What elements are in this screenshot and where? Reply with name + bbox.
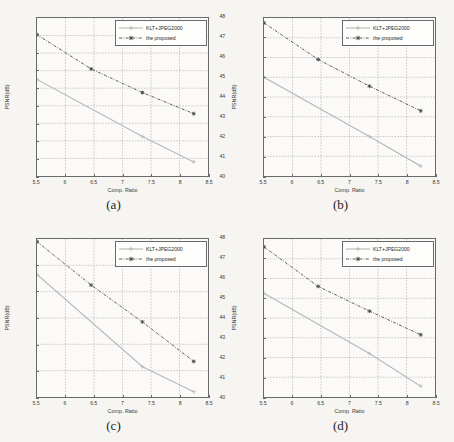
y-axis-label: PSNR(dB) — [231, 84, 237, 109]
plot-area-b: 4041424344454647485.566.577.588.5PSNR(dB… — [227, 0, 454, 200]
x-tick-mark — [292, 174, 293, 177]
x-tick-label: 7 — [348, 180, 351, 185]
legend-item-klt-jpeg2000[interactable]: KLT+JPEG2000 — [345, 244, 430, 254]
y-tick-mark — [263, 318, 266, 319]
y-tick-mark — [263, 57, 266, 58]
x-tick-mark — [65, 174, 66, 177]
y-tick-mark — [36, 17, 39, 18]
panel-caption-a: (a) — [0, 197, 227, 213]
y-axis-label: PSNR(dB) — [4, 305, 10, 330]
y-axis-label: PSNR(dB) — [4, 84, 10, 109]
legend-item-proposed[interactable]: the proposed — [345, 33, 430, 43]
y-tick-mark — [36, 265, 39, 266]
x-tick-mark — [65, 395, 66, 398]
x-tick-mark — [36, 395, 37, 398]
y-tick-mark — [36, 318, 39, 319]
x-tick-mark — [292, 395, 293, 398]
figure-panel-grid: 404142434445464748495.566.577.588.5PSNR(… — [0, 0, 454, 442]
x-tick-label: 6 — [290, 180, 293, 185]
x-tick-mark — [151, 174, 152, 177]
x-tick-mark — [407, 174, 408, 177]
x-tick-mark — [94, 395, 95, 398]
legend-item-klt-jpeg2000[interactable]: KLT+JPEG2000 — [118, 23, 203, 33]
x-tick-label: 6 — [63, 180, 66, 185]
x-tick-mark — [263, 174, 264, 177]
legend-swatch-proposed — [345, 254, 371, 264]
x-tick-label: 7 — [348, 401, 351, 406]
x-tick-label: 7 — [121, 401, 124, 406]
y-tick-label: 47 — [219, 34, 225, 39]
x-tick-mark — [350, 174, 351, 177]
x-tick-mark — [180, 174, 181, 177]
legend-item-proposed[interactable]: the proposed — [345, 254, 430, 264]
x-tick-label: 8 — [179, 180, 182, 185]
legend-item-proposed[interactable]: the proposed — [118, 33, 203, 43]
legend-item-proposed[interactable]: the proposed — [118, 254, 203, 264]
x-tick-label: 7.5 — [148, 180, 155, 185]
legend-label-klt-jpeg2000: KLT+JPEG2000 — [371, 246, 410, 252]
y-tick-mark — [36, 124, 39, 125]
x-tick-mark — [209, 174, 210, 177]
x-tick-label: 6 — [290, 401, 293, 406]
legend-d[interactable]: KLT+JPEG2000the proposed — [342, 241, 434, 267]
legend-item-klt-jpeg2000[interactable]: KLT+JPEG2000 — [345, 23, 430, 33]
y-tick-mark — [263, 17, 266, 18]
legend-swatch-klt-jpeg2000 — [118, 244, 144, 254]
chart-panel-a: 404142434445464748495.566.577.588.5PSNR(… — [0, 0, 227, 221]
x-tick-mark — [209, 395, 210, 398]
x-tick-mark — [436, 395, 437, 398]
y-tick-mark — [36, 141, 39, 142]
legend-label-klt-jpeg2000: KLT+JPEG2000 — [144, 25, 183, 31]
y-tick-label: 48 — [219, 235, 225, 240]
panel-caption-c: (c) — [0, 418, 227, 434]
x-tick-mark — [180, 395, 181, 398]
y-tick-mark — [263, 298, 266, 299]
legend-label-proposed: the proposed — [144, 35, 176, 41]
x-tick-mark — [407, 395, 408, 398]
y-tick-label: 48 — [219, 14, 225, 19]
legend-swatch-klt-jpeg2000 — [118, 23, 144, 33]
legend-c[interactable]: KLT+JPEG2000the proposed — [115, 241, 207, 267]
legend-swatch-proposed — [118, 254, 144, 264]
x-tick-label: 5.5 — [260, 180, 267, 185]
y-tick-mark — [36, 70, 39, 71]
legend-a[interactable]: KLT+JPEG2000the proposed — [115, 20, 207, 46]
legend-item-klt-jpeg2000[interactable]: KLT+JPEG2000 — [118, 244, 203, 254]
x-tick-mark — [263, 395, 264, 398]
plot-area-c: 454647484950515.566.577.588.5PSNR(dB)Com… — [0, 221, 227, 421]
x-tick-label: 5.5 — [33, 401, 40, 406]
y-tick-label: 40 — [219, 174, 225, 179]
legend-swatch-proposed — [345, 33, 371, 43]
y-tick-mark — [263, 258, 266, 259]
y-tick-label: 41 — [219, 154, 225, 159]
legend-label-proposed: the proposed — [144, 256, 176, 262]
y-axis-label: PSNR(dB) — [231, 305, 237, 330]
y-tick-mark — [263, 157, 266, 158]
legend-b[interactable]: KLT+JPEG2000the proposed — [342, 20, 434, 46]
x-tick-mark — [436, 174, 437, 177]
y-tick-mark — [36, 53, 39, 54]
x-axis-label: Comp. Ratio — [36, 408, 209, 414]
x-tick-mark — [350, 395, 351, 398]
x-tick-label: 6.5 — [317, 180, 324, 185]
y-tick-mark — [263, 378, 266, 379]
x-tick-label: 6 — [63, 401, 66, 406]
legend-label-klt-jpeg2000: KLT+JPEG2000 — [144, 246, 183, 252]
plot-area-a: 404142434445464748495.566.577.588.5PSNR(… — [0, 0, 227, 200]
chart-panel-c: 454647484950515.566.577.588.5PSNR(dB)Com… — [0, 221, 227, 442]
x-tick-label: 6.5 — [317, 401, 324, 406]
x-tick-mark — [321, 395, 322, 398]
x-tick-label: 7 — [121, 180, 124, 185]
plot-area-d: 4041424344454647485.566.577.588.5PSNR(dB… — [227, 221, 454, 421]
y-tick-mark — [36, 238, 39, 239]
legend-label-proposed: the proposed — [371, 35, 403, 41]
x-tick-label: 8 — [406, 401, 409, 406]
x-tick-mark — [321, 174, 322, 177]
y-tick-mark — [36, 35, 39, 36]
y-tick-mark — [263, 37, 266, 38]
y-tick-label: 44 — [219, 94, 225, 99]
y-tick-label: 47 — [219, 255, 225, 260]
x-tick-mark — [151, 395, 152, 398]
x-axis-label: Comp. Ratio — [263, 187, 436, 193]
x-axis-label: Comp. Ratio — [263, 408, 436, 414]
